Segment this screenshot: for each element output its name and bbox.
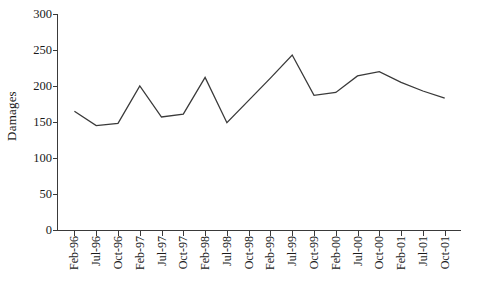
x-axis-tick-label-text: Feb-96 bbox=[68, 236, 80, 270]
line-chart: Damages 050100150200250300 Feb-96Jul-96O… bbox=[0, 0, 482, 292]
y-axis-tick-mark bbox=[53, 122, 57, 123]
x-axis-tick-label-text: Jul-96 bbox=[90, 236, 102, 266]
x-axis-tick-label: Jul-97 bbox=[155, 236, 169, 290]
x-axis-tick-label: Jul-01 bbox=[416, 236, 430, 290]
y-axis-tick-label: 300 bbox=[33, 8, 52, 20]
y-axis-tick-mark bbox=[53, 50, 57, 51]
x-axis-tick-label: Feb-96 bbox=[67, 236, 81, 290]
x-axis-tick-label-text: Feb-00 bbox=[330, 236, 342, 270]
x-axis-tick-label-text: Oct-97 bbox=[177, 236, 189, 269]
x-axis-tick-label-text: Feb-98 bbox=[199, 236, 211, 270]
x-axis-tick-label: Jul-00 bbox=[351, 236, 365, 290]
y-axis-tick-label: 150 bbox=[33, 116, 52, 128]
x-axis-tick-label: Feb-98 bbox=[198, 236, 212, 290]
y-axis-tick-mark bbox=[53, 14, 57, 15]
x-axis-tick-label: Oct-96 bbox=[111, 236, 125, 290]
x-axis-tick-labels: Feb-96Jul-96Oct-96Feb-97Jul-97Oct-97Feb-… bbox=[57, 236, 467, 292]
y-axis-title: Damages bbox=[0, 0, 24, 232]
x-axis-tick-label: Oct-98 bbox=[242, 236, 256, 290]
y-axis-tick-label: 50 bbox=[40, 188, 53, 200]
x-axis-tick-label-text: Oct-00 bbox=[373, 236, 385, 269]
plot-area bbox=[57, 14, 461, 231]
x-axis-tick-label-text: Oct-01 bbox=[439, 236, 451, 269]
x-axis-tick-label-text: Jul-01 bbox=[417, 236, 429, 266]
x-axis-tick-label-text: Oct-96 bbox=[112, 236, 124, 269]
data-series-line bbox=[57, 14, 461, 231]
y-axis-tick-label: 250 bbox=[33, 44, 52, 56]
x-axis-tick-label: Jul-98 bbox=[220, 236, 234, 290]
y-axis-tick-label: 0 bbox=[46, 224, 52, 236]
y-axis-tick-label: 200 bbox=[33, 80, 52, 92]
y-axis-title-text: Damages bbox=[4, 91, 20, 141]
x-axis-tick-label-text: Jul-99 bbox=[286, 236, 298, 266]
x-axis-tick-label: Feb-97 bbox=[133, 236, 147, 290]
x-axis-tick-label: Feb-01 bbox=[394, 236, 408, 290]
y-axis-tick-mark bbox=[53, 158, 57, 159]
x-axis-tick-label-text: Jul-98 bbox=[221, 236, 233, 266]
x-axis-tick-label-text: Jul-00 bbox=[352, 236, 364, 266]
x-axis-tick-label: Oct-97 bbox=[176, 236, 190, 290]
x-axis-tick-label: Feb-99 bbox=[263, 236, 277, 290]
x-axis-tick-label-text: Oct-99 bbox=[308, 236, 320, 269]
x-axis-tick-label-text: Feb-01 bbox=[395, 236, 407, 270]
x-axis-tick-label: Feb-00 bbox=[329, 236, 343, 290]
y-axis-tick-mark bbox=[53, 194, 57, 195]
x-axis-tick-label-text: Feb-97 bbox=[134, 236, 146, 270]
x-axis-tick-label-text: Jul-97 bbox=[156, 236, 168, 266]
x-axis-tick-label: Oct-99 bbox=[307, 236, 321, 290]
y-axis-tick-labels: 050100150200250300 bbox=[22, 0, 52, 240]
y-axis-tick-mark bbox=[53, 230, 57, 231]
x-axis-tick-label-text: Oct-98 bbox=[243, 236, 255, 269]
x-axis-tick-label: Oct-01 bbox=[438, 236, 452, 290]
x-axis-tick-label: Oct-00 bbox=[372, 236, 386, 290]
y-axis-tick-label: 100 bbox=[33, 152, 52, 164]
x-axis-tick-label: Jul-99 bbox=[285, 236, 299, 290]
x-axis-tick-label: Jul-96 bbox=[89, 236, 103, 290]
x-axis-tick-label-text: Feb-99 bbox=[264, 236, 276, 270]
y-axis-tick-mark bbox=[53, 86, 57, 87]
